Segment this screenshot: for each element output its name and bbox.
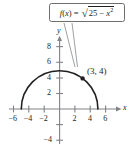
- y-axis: [56, 36, 63, 144]
- formula-text: f(x) = √25 − x2: [50, 4, 124, 21]
- formula-radicand: 25 − x2: [88, 6, 114, 18]
- x-tick-label-6: 6: [103, 115, 107, 123]
- y-tick-label-6: 6: [47, 58, 51, 66]
- y-tick-label-2: 2: [47, 89, 51, 97]
- point-marker: [80, 76, 84, 80]
- y-tick-label-8: 8: [47, 43, 51, 51]
- y-tick-label-minus-4: −4: [44, 136, 53, 144]
- x-axis: [9, 106, 122, 113]
- x-tick-label-minus-4: −4: [24, 115, 33, 123]
- graph-canvas: [0, 0, 131, 157]
- y-axis-label: y: [57, 27, 61, 35]
- formula-paren-close: ): [69, 8, 72, 18]
- formula-radical: √25 − x2: [81, 6, 114, 19]
- radicand-minus: −: [99, 8, 104, 18]
- formula-callout-box: f(x) = √25 − x2: [49, 3, 125, 22]
- radicand-constant: 25: [89, 8, 98, 18]
- x-tick-label-4: 4: [88, 115, 92, 123]
- callout-leader-lines: [64, 23, 78, 67]
- radicand-exponent: 2: [110, 7, 113, 13]
- x-tick-label-minus-6: −6: [9, 115, 18, 123]
- y-tick-label-4: 4: [47, 74, 51, 82]
- x-axis-label: x: [123, 104, 127, 112]
- x-tick-label-minus-2: −2: [39, 115, 48, 123]
- formula-equals: =: [74, 8, 79, 18]
- function-graph-figure: f(x) = √25 − x2 y x 8 6 4 2 −4 −6 −4 −2 …: [0, 0, 131, 157]
- x-tick-label-2: 2: [73, 115, 77, 123]
- point-label-3-4: (3, 4): [87, 67, 107, 76]
